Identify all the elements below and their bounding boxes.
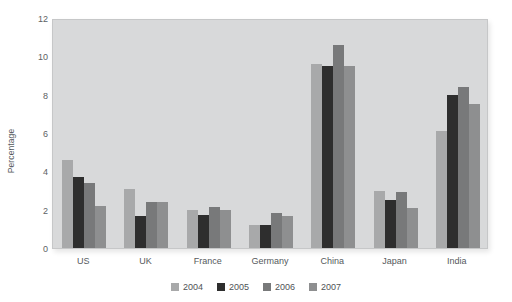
legend-swatch-icon [309, 283, 317, 291]
bar-chart: Percentage 024681012 USUKFranceGermanyCh… [0, 0, 512, 302]
y-axis-tick-label: 10 [22, 52, 48, 62]
x-axis-tick-label: Japan [382, 256, 407, 266]
bar-2004-India[interactable] [436, 131, 447, 248]
legend-entry[interactable]: 2004 [171, 282, 203, 292]
y-axis-tick-label: 8 [22, 91, 48, 101]
legend-label: 2007 [321, 282, 341, 292]
legend-entry[interactable]: 2007 [309, 282, 341, 292]
plot-area [52, 19, 488, 249]
bar-group [115, 20, 177, 248]
bar-2007-Japan[interactable] [407, 208, 418, 248]
bar-group [53, 20, 115, 248]
bar-2006-Japan[interactable] [396, 192, 407, 248]
bar-2006-Germany[interactable] [271, 213, 282, 248]
bar-2007-India[interactable] [469, 104, 480, 248]
bar-2005-India[interactable] [447, 95, 458, 248]
bar-2005-France[interactable] [198, 215, 209, 248]
legend-swatch-icon [263, 283, 271, 291]
bar-2004-China[interactable] [311, 64, 322, 248]
y-axis-tick-label: 12 [22, 14, 48, 24]
bar-2005-UK[interactable] [135, 216, 146, 248]
x-axis-tick-label: India [447, 256, 467, 266]
legend-label: 2004 [183, 282, 203, 292]
bar-group [178, 20, 240, 248]
legend-swatch-icon [171, 283, 179, 291]
legend-entry[interactable]: 2006 [263, 282, 295, 292]
chart-legend: 2004200520062007 [0, 279, 512, 295]
y-axis-tick-label: 4 [22, 167, 48, 177]
x-axis-tick-label: UK [139, 256, 152, 266]
y-axis-tick-label: 6 [22, 129, 48, 139]
y-axis-title: Percentage [0, 0, 22, 302]
bar-2005-Japan[interactable] [385, 200, 396, 248]
x-axis-tick-label: France [194, 256, 222, 266]
legend-swatch-icon [217, 283, 225, 291]
x-axis-tick-label: US [77, 256, 90, 266]
x-axis-tick-label: China [321, 256, 345, 266]
bar-group [302, 20, 364, 248]
x-axis-tick-labels: USUKFranceGermanyChinaJapanIndia [52, 256, 488, 270]
legend-label: 2006 [275, 282, 295, 292]
bar-2006-UK[interactable] [146, 202, 157, 248]
y-axis-tick-label: 2 [22, 206, 48, 216]
bar-2004-Germany[interactable] [249, 225, 260, 248]
y-axis-tick-labels: 024681012 [22, 0, 48, 302]
bar-2004-UK[interactable] [124, 189, 135, 248]
legend-entry[interactable]: 2005 [217, 282, 249, 292]
bar-2004-US[interactable] [62, 160, 73, 248]
bar-2007-US[interactable] [95, 206, 106, 248]
bar-2004-Japan[interactable] [374, 191, 385, 249]
bar-group [427, 20, 489, 248]
bar-2005-Germany[interactable] [260, 225, 271, 248]
y-axis-tick-label: 0 [22, 244, 48, 254]
x-axis-tick-label: Germany [251, 256, 288, 266]
bar-2006-China[interactable] [333, 45, 344, 248]
bar-2007-UK[interactable] [157, 202, 168, 248]
bar-group [240, 20, 302, 248]
bar-2006-US[interactable] [84, 183, 95, 248]
bar-2006-France[interactable] [209, 207, 220, 248]
bar-2005-US[interactable] [73, 177, 84, 248]
legend-label: 2005 [229, 282, 249, 292]
bar-2005-China[interactable] [322, 66, 333, 248]
bar-2007-Germany[interactable] [282, 216, 293, 248]
bar-2006-India[interactable] [458, 87, 469, 248]
bar-group [364, 20, 426, 248]
bar-2007-China[interactable] [344, 66, 355, 248]
bar-2004-France[interactable] [187, 210, 198, 248]
bar-2007-France[interactable] [220, 210, 231, 248]
bars-layer [53, 20, 487, 248]
